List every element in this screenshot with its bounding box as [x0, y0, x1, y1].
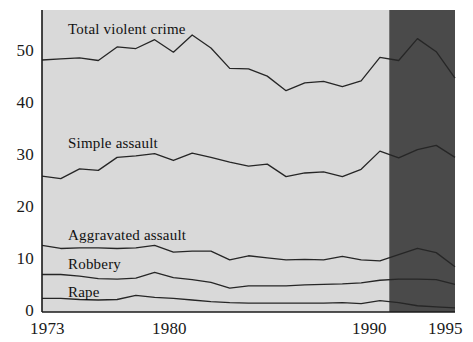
ytick-label-0: 0	[0, 302, 34, 319]
series-label-aggravated-assault: Aggravated assault	[68, 228, 186, 243]
xtick-label-1973: 1973	[30, 320, 65, 337]
xtick-label-1990: 1990	[352, 320, 387, 337]
ytick-label-50: 50	[0, 42, 34, 59]
xtick-label-1995: 1995	[428, 320, 463, 337]
series-label-simple-assault: Simple assault	[68, 136, 158, 151]
redesign-shaded-band	[389, 10, 455, 312]
crime-victimization-chart: 50 40 30 20 10 0 1973 1980 1990 1995 Tot…	[0, 0, 473, 342]
ytick-label-40: 40	[0, 94, 34, 111]
xtick-label-1980: 1980	[152, 320, 187, 337]
series-label-rape: Rape	[68, 285, 100, 300]
series-label-total-violent-crime: Total violent crime	[68, 22, 186, 37]
ytick-label-10: 10	[0, 250, 34, 267]
series-label-robbery: Robbery	[68, 257, 121, 272]
ytick-label-30: 30	[0, 146, 34, 163]
ytick-label-20: 20	[0, 198, 34, 215]
